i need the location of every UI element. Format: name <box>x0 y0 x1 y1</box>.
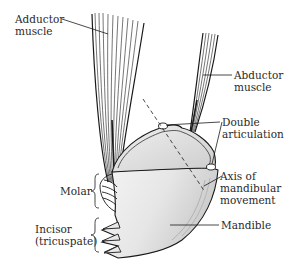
abductor-muscle <box>190 33 218 132</box>
label-abductor-muscle: Abductor muscle <box>234 69 283 93</box>
label-incisor: Incisor (tricuspate) <box>35 223 97 247</box>
label-mandible: Mandible <box>221 219 271 231</box>
label-double-articulation: Double articulation <box>222 116 284 140</box>
mandible-body <box>102 168 218 258</box>
incisor-cusps <box>102 222 121 253</box>
label-adductor-muscle: Adductor muscle <box>15 13 64 37</box>
articular-surface <box>112 125 216 172</box>
label-molar: Molar <box>60 185 92 197</box>
label-axis-of-mandibular-movement: Axis of mandibular movement <box>220 170 281 206</box>
